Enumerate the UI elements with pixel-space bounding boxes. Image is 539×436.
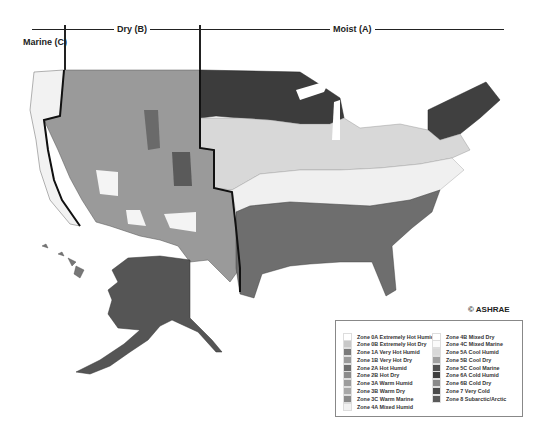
- legend-item: Zone 8 Subarctic/Arctic: [432, 395, 506, 402]
- legend-item: Zone 3A Warm Humid: [343, 380, 434, 387]
- swatch: [343, 379, 352, 387]
- legend-item: Zone 3C Warm Marine: [343, 395, 434, 402]
- swatch: [432, 364, 441, 372]
- swatch: [343, 387, 352, 395]
- legend-item: Zone 4A Mixed Humid: [343, 403, 434, 410]
- legend: Zone 0A Extremely Hot Humid Zone 0B Extr…: [335, 320, 523, 417]
- legend-item: Zone 4C Mixed Marine: [432, 341, 506, 348]
- alaska: [76, 256, 222, 374]
- hawaii: [42, 244, 84, 278]
- legend-left-column: Zone 0A Extremely Hot Humid Zone 0B Extr…: [343, 333, 434, 411]
- legend-item: Zone 4B Mixed Dry: [432, 333, 506, 340]
- legend-item: Zone 6B Cold Dry: [432, 380, 506, 387]
- swatch: [432, 379, 441, 387]
- swatch: [432, 371, 441, 379]
- swatch: [432, 356, 441, 364]
- legend-item: Zone 3B Warm Dry: [343, 388, 434, 395]
- region-southeast-hot: [236, 190, 440, 298]
- swatch: [432, 348, 441, 356]
- swatch: [343, 340, 352, 348]
- swatch: [343, 371, 352, 379]
- copyright: © ASHRAE: [468, 305, 510, 314]
- legend-item: Zone 5C Cool Marine: [432, 364, 506, 371]
- swatch: [432, 387, 441, 395]
- legend-item: Zone 2A Hot Humid: [343, 364, 434, 371]
- swatch: [343, 403, 352, 411]
- region-northeast-cold: [428, 82, 500, 140]
- legend-item: Zone 7 Very Cold: [432, 388, 506, 395]
- swatch: [343, 348, 352, 356]
- legend-right-column: Zone 4B Mixed Dry Zone 4C Mixed Marine Z…: [432, 333, 506, 403]
- legend-item: Zone 1B Very Hot Dry: [343, 356, 434, 363]
- swatch: [343, 395, 352, 403]
- swatch: [432, 340, 441, 348]
- region-north-cold: [200, 70, 344, 124]
- swatch: [432, 333, 441, 341]
- swatch: [343, 333, 352, 341]
- legend-item: Zone 2B Hot Dry: [343, 372, 434, 379]
- swatch: [343, 364, 352, 372]
- legend-item: Zone 6A Cold Humid: [432, 372, 506, 379]
- legend-item: Zone 5B Cool Dry: [432, 356, 506, 363]
- legend-item: Zone 1A Very Hot Humid: [343, 349, 434, 356]
- swatch: [343, 356, 352, 364]
- region-colorado-cold: [172, 152, 192, 186]
- legend-item: Zone 0B Extremely Hot Dry: [343, 341, 434, 348]
- swatch: [432, 395, 441, 403]
- legend-item: Zone 0A Extremely Hot Humid: [343, 333, 434, 340]
- legend-item: Zone 5A Cool Humid: [432, 349, 506, 356]
